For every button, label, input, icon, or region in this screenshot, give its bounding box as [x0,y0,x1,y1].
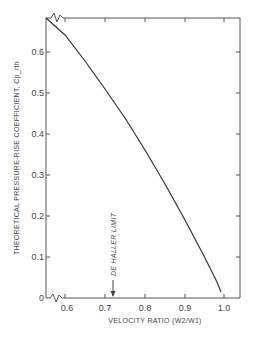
svg-text:0: 0 [39,293,44,303]
y-axis-title: THEORETICAL PRESSURE-RISE COEFFICIENT, C… [13,61,21,255]
svg-text:0.4: 0.4 [31,129,44,139]
svg-text:0.6: 0.6 [31,47,44,57]
svg-text:0.5: 0.5 [31,88,44,98]
svg-text:0.3: 0.3 [31,170,44,180]
x-tick-labels: 0.6 0.7 0.8 0.9 1.0 [61,303,231,313]
x-axis-title: VELOCITY RATIO (W2/W1) [108,317,201,325]
data-line [46,18,221,292]
svg-text:1.0: 1.0 [218,303,231,313]
svg-text:0.6: 0.6 [61,303,74,313]
de-haller-label: DE HALLER LIMIT [110,212,117,276]
chart: 0.6 0.7 0.8 0.9 1.0 0 0.1 0.2 0.3 0.4 0.… [0,0,256,338]
y-ticks [46,52,240,257]
y-tick-labels: 0 0.1 0.2 0.3 0.4 0.5 0.6 [31,47,44,303]
de-haller-annotation: DE HALLER LIMIT [110,212,117,297]
plot-frame [46,13,240,302]
svg-text:0.8: 0.8 [139,303,152,313]
svg-text:0.7: 0.7 [99,303,112,313]
svg-text:0.2: 0.2 [31,211,44,221]
svg-text:0.1: 0.1 [31,252,44,262]
axis-break-bottom [46,294,64,302]
svg-text:0.9: 0.9 [179,303,192,313]
x-ticks [65,18,224,298]
